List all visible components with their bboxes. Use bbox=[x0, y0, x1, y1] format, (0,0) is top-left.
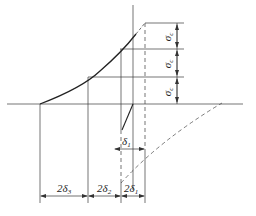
diagram-canvas: σc σc σc δ1 2δ3 2δ2 2δ1 bbox=[0, 0, 256, 216]
dim-2d3-label: 2δ3 bbox=[57, 182, 72, 196]
sigma-label-2: σc bbox=[161, 59, 175, 68]
unloading-line bbox=[122, 104, 133, 130]
delta1-label: δ1 bbox=[122, 135, 131, 149]
dim-2d2-label: 2δ2 bbox=[97, 182, 112, 196]
reverse-curve-dashed bbox=[121, 103, 222, 183]
loading-curve-dashed-tip bbox=[136, 23, 145, 34]
sigma-label-3: σc bbox=[161, 87, 175, 96]
sigma-label-1: σc bbox=[161, 32, 175, 41]
dim-2d1-label: 2δ1 bbox=[124, 182, 138, 196]
